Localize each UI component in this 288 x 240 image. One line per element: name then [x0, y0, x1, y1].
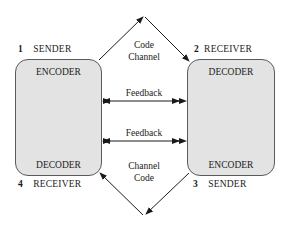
channel-code-label: Channel Code [114, 160, 174, 184]
feedback-lower-label: Feedback [114, 127, 174, 139]
right-node-box: DECODER ENCODER [187, 59, 275, 176]
node-1-label: 1 SENDER [18, 44, 71, 54]
node-4-number: 4 [18, 179, 23, 189]
code-channel-line1: Code [114, 39, 174, 51]
channel-code-line1: Channel [114, 160, 174, 172]
node-2-label: 2 RECEIVER [194, 44, 252, 54]
left-encoder-label: ENCODER [16, 67, 101, 77]
node-3-label: 3 SENDER [193, 179, 246, 189]
node-3-role: SENDER [208, 179, 246, 189]
right-decoder-label: DECODER [188, 67, 274, 77]
channel-code-line2: Code [114, 172, 174, 184]
node-1-number: 1 [18, 44, 23, 54]
node-2-role: RECEIVER [204, 44, 252, 54]
node-3-number: 3 [193, 179, 198, 189]
code-channel-line2: Channel [114, 51, 174, 63]
left-node-box: ENCODER DECODER [15, 59, 102, 176]
node-4-label: 4 RECEIVER [18, 179, 81, 189]
node-4-role: RECEIVER [33, 179, 81, 189]
node-2-number: 2 [194, 44, 199, 54]
left-decoder-label: DECODER [16, 160, 101, 170]
right-encoder-label: ENCODER [188, 160, 274, 170]
code-channel-label: Code Channel [114, 39, 174, 63]
node-1-role: SENDER [33, 44, 71, 54]
feedback-upper-label: Feedback [114, 87, 174, 99]
